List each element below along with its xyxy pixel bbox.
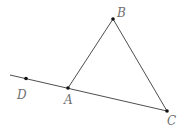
segment-BC bbox=[113, 19, 167, 111]
segment-AB bbox=[68, 19, 113, 88]
label-B: B bbox=[116, 6, 126, 20]
point-C bbox=[165, 109, 169, 113]
point-D bbox=[24, 77, 28, 81]
label-A: A bbox=[63, 93, 73, 107]
point-B bbox=[111, 17, 115, 21]
label-D: D bbox=[16, 88, 27, 102]
geometry-diagram: B A D C bbox=[0, 0, 188, 132]
point-A bbox=[66, 86, 70, 90]
line-DAC bbox=[10, 75, 167, 111]
label-C: C bbox=[167, 114, 176, 128]
